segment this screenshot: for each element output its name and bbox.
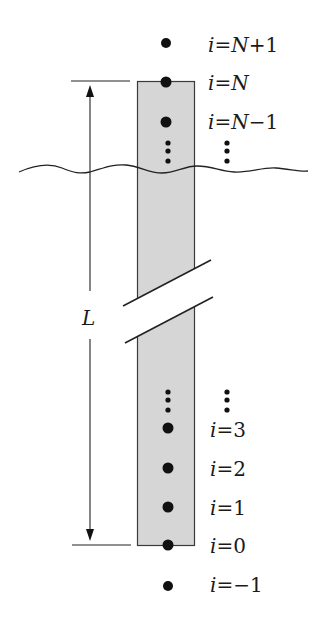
rod-grid-diagram: L i=N+1 i=N i=N−1 i=3 i=2 i=1 i=0 i=−1: [0, 0, 322, 621]
node-dot-2: [163, 463, 174, 474]
node-label-3: i=3: [210, 418, 246, 442]
node-dot-N: [161, 77, 172, 88]
node-label-2: i=2: [210, 457, 246, 481]
node-dot-3: [163, 423, 174, 434]
node-label-1: i=1: [210, 496, 246, 520]
node-label-N: i=N: [208, 71, 250, 95]
node-label-minus-1: i=−1: [210, 573, 263, 597]
arrowhead-down-icon: [86, 529, 94, 541]
length-label: L: [81, 306, 95, 330]
node-label-0: i=0: [210, 534, 246, 558]
node-dot-N-plus-1: [161, 38, 171, 48]
arrowhead-up-icon: [86, 85, 94, 97]
node-label-N-plus-1: i=N+1: [208, 33, 278, 57]
node-label-N-minus-1: i=N−1: [208, 110, 278, 134]
node-dot-N-minus-1: [161, 117, 172, 128]
node-dot-minus-1: [163, 581, 173, 591]
node-dot-0: [163, 540, 174, 551]
node-dot-1: [163, 502, 174, 513]
